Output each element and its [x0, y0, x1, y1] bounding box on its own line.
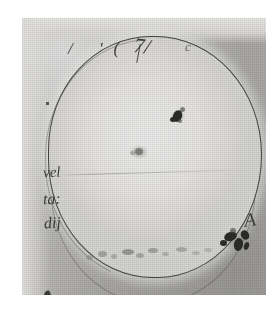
halftone-screen-texture — [22, 18, 266, 295]
screenshot-canvas: / '( 7/ c vel ta: dij A — [0, 0, 277, 309]
scanned-paper-plate: / '( 7/ c vel ta: dij A — [22, 18, 266, 295]
